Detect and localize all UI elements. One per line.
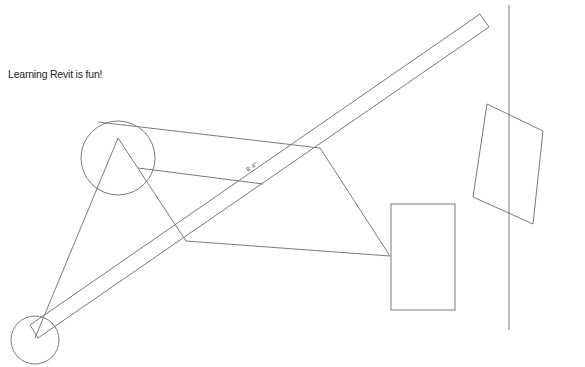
drawing-canvas: 8' 4": [0, 0, 585, 367]
dimension-label: 8' 4": [245, 161, 258, 172]
beam[interactable]: [30, 14, 489, 338]
triangle-right-edge[interactable]: [118, 138, 186, 241]
inner-edge[interactable]: [138, 168, 263, 184]
rectangle[interactable]: [391, 204, 455, 310]
bottom-edge[interactable]: [186, 241, 390, 256]
rotated-rectangle[interactable]: [473, 104, 543, 224]
large-circle[interactable]: [81, 121, 155, 195]
top-tangent-line[interactable]: [98, 122, 320, 148]
text-note[interactable]: Learning Revit is fun!: [8, 68, 102, 80]
right-edge[interactable]: [320, 148, 390, 256]
small-circle[interactable]: [11, 316, 59, 364]
triangle-left-edge[interactable]: [35, 138, 118, 338]
